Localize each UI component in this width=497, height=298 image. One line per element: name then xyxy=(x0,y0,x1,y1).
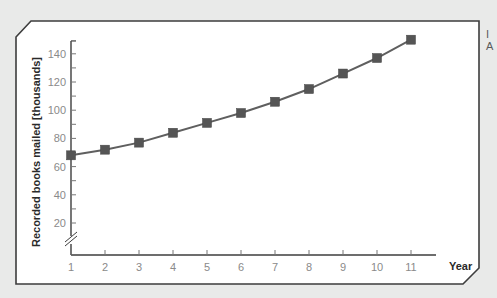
y-tick-label: 100 xyxy=(48,104,66,116)
data-point-marker xyxy=(203,118,212,127)
y-tick-label: 20 xyxy=(54,217,66,229)
data-point-marker xyxy=(407,35,416,44)
x-tick-label: 7 xyxy=(272,261,278,273)
x-tick-label: 8 xyxy=(306,261,312,273)
x-tick-label: 11 xyxy=(405,261,416,273)
y-tick-label: 80 xyxy=(54,132,66,144)
side-text-line-1: I xyxy=(486,28,489,40)
y-tick-label: 120 xyxy=(48,76,66,88)
y-tick-label: 60 xyxy=(54,161,66,173)
x-tick-label: 1 xyxy=(68,261,74,273)
x-tick-label: 10 xyxy=(371,261,383,273)
x-tick-label: 9 xyxy=(340,261,346,273)
data-point-marker xyxy=(373,54,382,63)
data-point-marker xyxy=(67,151,76,160)
side-text-line-2: A xyxy=(486,40,493,52)
x-tick-label: 6 xyxy=(238,261,244,273)
data-point-marker xyxy=(135,138,144,147)
data-point-marker xyxy=(271,97,280,106)
x-tick-label: 5 xyxy=(204,261,210,273)
data-point-marker xyxy=(237,109,246,118)
x-tick-label: 4 xyxy=(170,261,176,273)
y-tick-label: 140 xyxy=(48,48,66,60)
x-tick-label: 2 xyxy=(102,261,108,273)
data-point-marker xyxy=(169,128,178,137)
data-point-marker xyxy=(339,69,348,78)
data-point-marker xyxy=(101,145,110,154)
data-point-marker xyxy=(305,85,314,94)
y-axis-title: Recorded books mailed [thousands] xyxy=(30,57,42,247)
chart: 20406080100120140 1234567891011 Recorded… xyxy=(0,0,497,298)
x-tick-label: 3 xyxy=(136,261,142,273)
y-tick-label: 40 xyxy=(54,189,66,201)
x-axis-title: Year xyxy=(449,260,473,272)
